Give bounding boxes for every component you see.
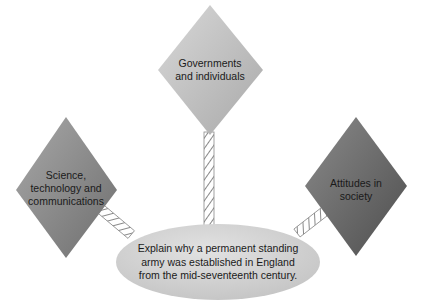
factor-diamond-governments: [158, 5, 263, 135]
central-question-ellipse: [116, 224, 320, 300]
spider-diagram: [0, 0, 424, 303]
factor-diamond-attitudes: [305, 117, 407, 256]
factor-diamond-science: [16, 117, 117, 258]
rope-connector-top: [204, 132, 214, 228]
